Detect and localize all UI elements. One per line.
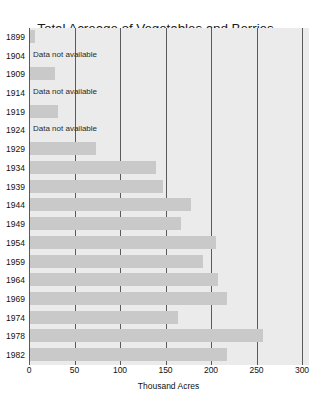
x-tick-0: 0 <box>9 365 49 375</box>
bar-1949 <box>30 217 181 230</box>
bar-row <box>30 348 309 361</box>
data-not-available-label-1914: Data not available <box>33 85 97 99</box>
y-label-1939: 1939 <box>0 182 25 192</box>
bar-row <box>30 67 309 80</box>
bar-1974 <box>30 311 178 324</box>
y-label-1914: 1914 <box>0 88 25 98</box>
bar-row <box>30 217 309 230</box>
bar-1929 <box>30 142 96 155</box>
y-label-1909: 1909 <box>0 69 25 79</box>
y-label-1949: 1949 <box>0 219 25 229</box>
bar-1909 <box>30 67 55 80</box>
bar-row <box>30 105 309 118</box>
bar-1969 <box>30 292 227 305</box>
bar-row <box>30 30 309 43</box>
y-label-1919: 1919 <box>0 107 25 117</box>
y-label-1929: 1929 <box>0 144 25 154</box>
x-tick-100: 100 <box>100 365 140 375</box>
bar-row <box>30 161 309 174</box>
data-not-available-label-1904: Data not available <box>33 48 97 62</box>
y-label-1899: 1899 <box>0 32 25 42</box>
bar-1899 <box>30 30 35 43</box>
bar-row <box>30 292 309 305</box>
y-label-1954: 1954 <box>0 238 25 248</box>
x-tick-50: 50 <box>55 365 95 375</box>
bar-1959 <box>30 255 203 268</box>
y-label-1944: 1944 <box>0 200 25 210</box>
y-label-1982: 1982 <box>0 350 25 360</box>
bar-1978 <box>30 329 263 342</box>
bar-1939 <box>30 180 163 193</box>
bar-row <box>30 273 309 286</box>
bar-row: Data not available <box>30 86 309 99</box>
x-tick-300: 300 <box>282 365 311 375</box>
bar-row: Data not available <box>30 123 309 136</box>
bar-chart: Total Acreage of Vegetables and Berries … <box>0 0 311 395</box>
bar-row: Data not available <box>30 49 309 62</box>
y-label-1904: 1904 <box>0 51 25 61</box>
bar-1982 <box>30 348 227 361</box>
bar-1934 <box>30 161 156 174</box>
bar-row <box>30 142 309 155</box>
bar-row <box>30 180 309 193</box>
y-label-1964: 1964 <box>0 275 25 285</box>
x-axis-title: Thousand Acres <box>29 381 308 391</box>
y-label-1924: 1924 <box>0 125 25 135</box>
x-tick-250: 250 <box>237 365 277 375</box>
y-label-1978: 1978 <box>0 331 25 341</box>
y-label-1934: 1934 <box>0 163 25 173</box>
bar-row <box>30 255 309 268</box>
x-tick-200: 200 <box>191 365 231 375</box>
bar-row <box>30 311 309 324</box>
y-label-1969: 1969 <box>0 294 25 304</box>
x-tick-150: 150 <box>146 365 186 375</box>
bar-1954 <box>30 236 216 249</box>
bar-1964 <box>30 273 218 286</box>
bar-1944 <box>30 198 191 211</box>
bar-row <box>30 198 309 211</box>
data-not-available-label-1924: Data not available <box>33 122 97 136</box>
y-label-1974: 1974 <box>0 313 25 323</box>
plot-area: Data not availableData not availableData… <box>29 28 309 365</box>
y-label-1959: 1959 <box>0 257 25 267</box>
bar-1919 <box>30 105 58 118</box>
bar-row <box>30 329 309 342</box>
bar-row <box>30 236 309 249</box>
